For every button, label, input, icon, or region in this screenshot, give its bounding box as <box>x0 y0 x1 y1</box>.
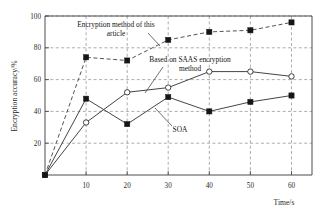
annotation-saas-line2: method <box>179 64 201 73</box>
annotation-soa-label: SOA <box>173 125 188 134</box>
x-tick-label-50: 50 <box>247 182 255 190</box>
y-tick-label-60: 60 <box>34 76 42 84</box>
series-soa-point-30 <box>166 95 171 100</box>
series-article-point-30 <box>166 37 171 42</box>
annotation-saas-line1: Based on SAAS encryption <box>149 55 231 64</box>
series-soa-point-20 <box>125 122 130 127</box>
y-axis-title: Encryption accuracy/% <box>10 60 19 132</box>
y-tick-label-100: 100 <box>30 13 41 21</box>
series-article-point-10 <box>84 55 89 60</box>
x-tick-label-30: 30 <box>165 182 173 190</box>
series-article-point-0 <box>42 172 47 177</box>
series-soa-point-60 <box>289 93 294 98</box>
y-tick-label-80: 80 <box>34 44 42 52</box>
series-soa-point-50 <box>248 99 253 104</box>
series-saas-point-50 <box>248 69 253 74</box>
series-article-point-20 <box>125 58 130 63</box>
x-axis-title: Time/s <box>274 198 295 207</box>
y-tick-label-40: 40 <box>34 108 42 116</box>
series-article-point-40 <box>207 29 212 34</box>
series-article-point-60 <box>289 20 294 25</box>
series-soa-point-40 <box>207 109 212 114</box>
series-article-point-50 <box>248 28 253 33</box>
annotation-article-line2: article <box>107 29 126 38</box>
series-soa-point-10 <box>84 96 89 101</box>
x-tick-labels: 10 20 30 40 50 60 <box>83 182 296 190</box>
plot-background <box>45 16 312 175</box>
y-tick-label-20: 20 <box>34 140 42 148</box>
annotation-article-line1: Encryption method of this <box>77 20 155 29</box>
x-tick-label-10: 10 <box>83 182 91 190</box>
series-saas-point-60 <box>289 74 294 79</box>
series-saas-point-20 <box>125 90 130 95</box>
y-tick-labels: 100 80 60 40 20 <box>30 13 41 148</box>
chart-figure: 100 80 60 40 20 10 20 30 40 50 60 Encryp… <box>0 0 330 213</box>
series-saas-point-10 <box>83 120 88 125</box>
x-tick-label-20: 20 <box>124 182 132 190</box>
series-saas-point-40 <box>207 69 212 74</box>
chart-canvas: 100 80 60 40 20 10 20 30 40 50 60 Encryp… <box>0 0 330 213</box>
series-saas-point-30 <box>166 85 171 90</box>
x-tick-label-40: 40 <box>206 182 214 190</box>
x-tick-label-60: 60 <box>288 182 296 190</box>
